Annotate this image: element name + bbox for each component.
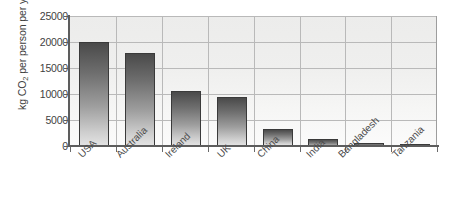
x-tick-mark-0 (70, 147, 71, 152)
gridline-v-3 (208, 16, 209, 146)
gridline-v-4 (254, 16, 255, 146)
co2-emissions-bar-chart: kg CO2 per person per year 25000 20000 1… (0, 0, 449, 201)
y-tick-label-20000: 20000 (22, 37, 68, 47)
x-tick-mark-3 (208, 147, 209, 152)
gridline-v-6 (345, 16, 346, 146)
bar-uk (217, 97, 247, 146)
gridline-v-1 (116, 16, 117, 146)
y-axis-title-subscript: 2 (21, 77, 30, 81)
gridline-v-5 (300, 16, 301, 146)
plot-area (70, 16, 437, 146)
y-tick-label-0: 0 (22, 141, 68, 151)
x-tick-mark-8 (437, 147, 438, 152)
y-tick-label-15000: 15000 (22, 63, 68, 73)
plot-right-edge (436, 16, 437, 146)
y-tick-label-10000: 10000 (22, 89, 68, 99)
y-tick-label-25000: 25000 (22, 11, 68, 21)
gridline-v-7 (391, 16, 392, 146)
gridline-v-2 (162, 16, 163, 146)
x-tick-mark-5 (300, 147, 301, 152)
bar-usa (79, 42, 109, 146)
y-tick-label-5000: 5000 (22, 115, 68, 125)
y-axis-line (68, 15, 70, 147)
